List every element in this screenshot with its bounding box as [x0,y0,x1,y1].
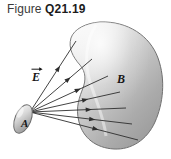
figure-illustration [0,0,171,159]
object-label-a: A [21,117,28,129]
object-label-b: B [117,72,125,87]
field-arrowhead-1 [55,64,62,72]
figure-container: Figure Q21.19 [0,0,171,159]
field-label-e: E [32,70,40,85]
field-arrowhead-3 [74,86,82,93]
